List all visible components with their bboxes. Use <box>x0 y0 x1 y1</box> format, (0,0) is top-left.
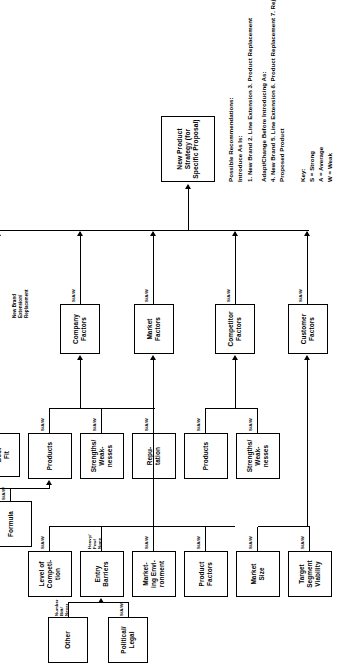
box-label: Viability <box>314 560 322 588</box>
box-company-factors: Company Factors <box>60 304 100 354</box>
box-marketing-environment: Market- ing Envi- ronment <box>132 551 176 597</box>
connector <box>307 359 308 527</box>
connector <box>80 359 81 409</box>
recommendations-block: Possible Recommendations: Introduce As I… <box>226 0 287 182</box>
connector <box>205 527 206 551</box>
connector <box>10 489 11 501</box>
box-other: Other <box>48 617 88 663</box>
connector <box>257 527 258 551</box>
connector <box>128 603 129 617</box>
key-legend: Key: S = Strong A = Average W = Weak <box>299 147 335 182</box>
box-label: Specific Proposal) <box>192 119 200 178</box>
box-label: tion <box>54 560 62 589</box>
edge-label-saw: S/A/W <box>249 418 254 431</box>
connector <box>258 526 310 527</box>
recommendations-items: 1. New Brand 2. Line Extension 3. Produc… <box>245 0 254 182</box>
arrow-head <box>232 231 238 236</box>
arrow-head <box>77 355 83 360</box>
recommendations-group-heading: Introduce As Is: <box>235 0 244 182</box>
box-label: Strategy (for <box>184 119 192 178</box>
arrow-head <box>0 231 1 236</box>
arrow-head <box>98 598 104 603</box>
box-label: Legal <box>128 626 136 653</box>
box-label: Customer <box>300 314 308 345</box>
edge-label-saw: S/A/W <box>120 603 125 616</box>
box-label: Factors <box>154 317 162 341</box>
box-label: ronment <box>158 560 166 588</box>
box-label: Competitor <box>227 311 235 346</box>
box-label: nesses <box>106 440 114 473</box>
box-label: Barriers <box>102 561 110 586</box>
box-label: Size <box>258 563 266 584</box>
box-level-of-competition: Level of Competi- tion <box>28 551 72 597</box>
box-political-legal: Political/ Legal <box>108 617 148 663</box>
box-label: Strengths/ <box>246 440 254 473</box>
connector <box>205 408 258 409</box>
edge-label-saw: S/A/W <box>299 289 304 302</box>
note-line: Replacement <box>24 289 30 318</box>
connector <box>153 359 154 527</box>
connector <box>80 232 81 304</box>
connector <box>0 488 49 489</box>
connector <box>153 527 154 551</box>
box-label: nesses <box>262 440 270 473</box>
recommendations-items: Proposed Product <box>277 0 286 182</box>
box-product-factors: Product Factors <box>184 551 228 597</box>
box-label: New Product <box>176 119 184 178</box>
box-market-size: Market Size <box>236 551 280 597</box>
edge-label-saw: S/A/W <box>145 418 150 431</box>
connector <box>101 409 102 433</box>
connector <box>235 359 236 409</box>
arrow-head <box>304 231 310 236</box>
box-label: Other <box>64 631 72 649</box>
box-label: ing Envi- <box>150 560 158 588</box>
box-customer-factors: Customer Factors <box>288 304 328 354</box>
arrow-head <box>150 231 156 236</box>
box-label: Product <box>198 562 206 587</box>
connector <box>49 409 50 433</box>
box-label: Market- <box>142 560 150 588</box>
box-label: Products <box>46 442 54 471</box>
key-item: S = Strong <box>308 147 317 182</box>
edge-label-saw: S/A/W <box>41 536 46 549</box>
edge-label-saw: S/A/W <box>2 487 7 500</box>
connector <box>307 232 308 304</box>
box-formula: Formula <box>0 501 32 547</box>
connector <box>205 409 206 433</box>
box-competitor-factors: Competitor Factors <box>215 304 255 354</box>
key-item: A = Average <box>317 147 326 182</box>
box-label: Factors <box>308 314 316 345</box>
connector <box>49 526 235 527</box>
box-new-product-strategy: New Product Strategy (for Specific Propo… <box>161 116 215 182</box>
edge-label-saw: S/A/W <box>227 289 232 302</box>
box-market-factors: Market Factors <box>134 304 174 354</box>
box-label: Market <box>250 563 258 584</box>
key-item: W = Weak <box>326 147 335 182</box>
arrow-head <box>46 480 52 485</box>
key-heading: Key: <box>299 147 308 182</box>
box-company-strengths-weaknesses: Strengths/ Weak- nesses <box>80 433 124 479</box>
box-competitor-products: Products <box>184 433 228 479</box>
edge-label-saw: S/A/W <box>41 418 46 431</box>
edge-label-saw: S/A/W <box>301 536 306 549</box>
connector <box>153 232 154 304</box>
box-label: Factors <box>80 314 88 344</box>
box-label: Weak- <box>254 440 262 473</box>
box-label: Fit <box>3 445 11 465</box>
edge-label-other: Number Bitt/ Never <box>55 600 70 616</box>
arrow-head <box>77 231 83 236</box>
box-oppty-best-fit: Oppty. Best Fit <box>0 433 20 477</box>
box-label: Level of <box>38 560 46 589</box>
connector <box>49 408 155 409</box>
edge-label-saw: S/A/W <box>249 536 254 549</box>
box-label: Factors <box>206 562 214 587</box>
box-label: Entry <box>94 561 102 586</box>
box-label: Factors <box>235 311 243 346</box>
connector-bus <box>0 230 309 231</box>
arrow-head <box>150 355 156 360</box>
connector <box>235 232 236 304</box>
connector <box>257 409 258 433</box>
box-label: Market <box>146 317 154 341</box>
arrow-head <box>304 355 310 360</box>
